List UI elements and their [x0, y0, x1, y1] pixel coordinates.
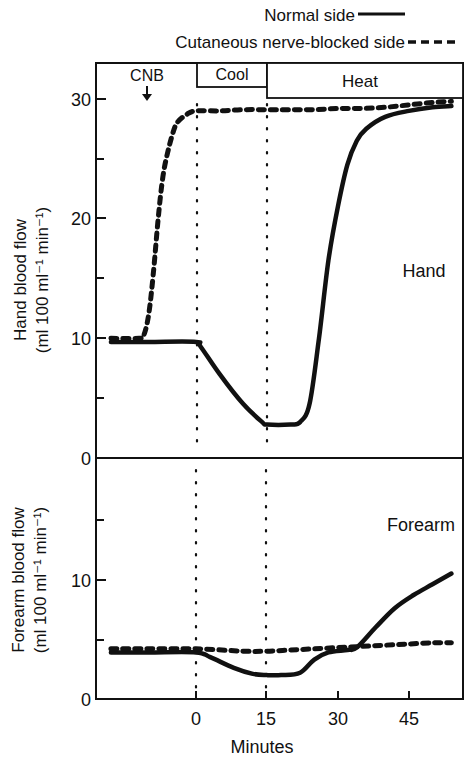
hand-tick-20: 20 [71, 209, 91, 229]
hand-tick-0: 0 [81, 449, 91, 469]
legend-normal-label: Normal side [264, 6, 355, 25]
plot-frame [96, 63, 463, 699]
forearm-tick-0: 0 [81, 690, 91, 710]
hand-tick-30: 30 [71, 90, 91, 110]
forearm-y-label: Forearm blood flow (ml 100 ml⁻¹ min⁻¹) [9, 507, 50, 654]
x-tick-15: 15 [256, 709, 276, 729]
forearm-normal-series [111, 574, 452, 676]
x-axis-ticks [196, 691, 409, 699]
phase-bar: CNB Cool Heat [130, 63, 463, 101]
legend-blocked-label: Cutaneous nerve-blocked side [175, 33, 405, 52]
series-layer [111, 101, 452, 675]
hand-y-axis [96, 99, 106, 398]
hand-ylabel-line2: (ml 100 ml⁻¹ min⁻¹) [33, 207, 52, 353]
hand-y-label: Hand blood flow (ml 100 ml⁻¹ min⁻¹) [11, 207, 52, 353]
x-tick-30: 30 [328, 709, 348, 729]
x-tick-0: 0 [191, 709, 201, 729]
heat-label: Heat [342, 72, 378, 91]
cnb-arrow-icon [142, 86, 152, 101]
forearm-y-axis [96, 520, 106, 640]
forearm-tick-10: 10 [71, 571, 91, 591]
x-tick-45: 45 [399, 709, 419, 729]
x-axis-label: Minutes [230, 737, 293, 757]
legend: Normal side Cutaneous nerve-blocked side [175, 6, 455, 52]
cnb-label: CNB [130, 67, 164, 84]
cool-label: Cool [216, 66, 249, 83]
forearm-ylabel-line1: Forearm blood flow [9, 507, 28, 653]
forearm-ylabel-line2: (ml 100 ml⁻¹ min⁻¹) [31, 507, 50, 653]
blood-flow-figure: Normal side Cutaneous nerve-blocked side… [0, 0, 472, 766]
hand-ylabel-line1: Hand blood flow [11, 218, 30, 341]
forearm-panel-label: Forearm [387, 515, 455, 535]
hand-blocked-series [111, 101, 452, 338]
phase-markers [196, 104, 267, 695]
hand-tick-10: 10 [71, 329, 91, 349]
hand-panel-label: Hand [402, 261, 445, 281]
forearm-blocked-series [111, 643, 452, 652]
hand-normal-series [111, 106, 452, 425]
